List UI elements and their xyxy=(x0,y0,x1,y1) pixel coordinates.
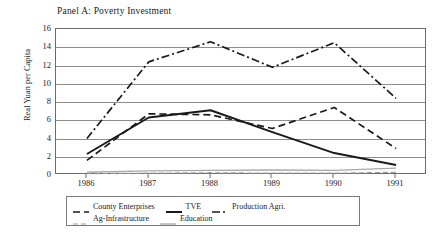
y-tick-label: 2 xyxy=(21,152,51,161)
series-line xyxy=(87,172,396,173)
legend-key-icon xyxy=(212,202,228,210)
y-tick-label: 0 xyxy=(21,170,51,179)
legend-label: Ag-Infrastructure xyxy=(93,214,149,223)
legend-item[interactable]: Production Agri. xyxy=(212,202,285,211)
x-tick-label: 1987 xyxy=(125,178,171,188)
series-line xyxy=(87,42,396,139)
x-tick-label: 1989 xyxy=(248,178,294,188)
series-line xyxy=(87,168,396,172)
legend: County EnterprisesTVEProduction Agri. Ag… xyxy=(66,196,360,226)
legend-key-icon xyxy=(73,214,89,222)
y-axis-ticks: 0246810121416 xyxy=(18,28,51,174)
y-tick-label: 8 xyxy=(21,97,51,106)
y-tick-label: 6 xyxy=(21,115,51,124)
legend-label: Education xyxy=(180,214,212,223)
chart-panel: Panel A: Poverty Investment Real Yuan pe… xyxy=(0,0,445,239)
y-tick-label: 10 xyxy=(21,79,51,88)
x-tick-label: 1986 xyxy=(63,178,109,188)
y-tick-label: 12 xyxy=(21,60,51,69)
legend-label: TVE xyxy=(186,202,202,211)
x-tick-mark xyxy=(147,174,148,178)
x-axis-ticks: 198619871988198919901991 xyxy=(55,178,426,192)
legend-key-icon xyxy=(160,214,176,222)
legend-key-icon xyxy=(73,202,89,210)
series-line xyxy=(87,107,396,160)
x-tick-mark xyxy=(209,174,210,178)
x-tick-label: 1990 xyxy=(310,178,356,188)
y-tick-label: 16 xyxy=(21,24,51,33)
x-tick-mark xyxy=(333,174,334,178)
series-lines xyxy=(56,29,427,175)
x-tick-mark xyxy=(85,174,86,178)
x-tick-mark xyxy=(271,174,272,178)
legend-label: County Enterprises xyxy=(93,202,155,211)
legend-label: Production Agri. xyxy=(232,202,285,211)
plot-area xyxy=(55,28,426,174)
page-title: Panel A: Poverty Investment xyxy=(57,6,171,16)
legend-item[interactable]: County Enterprises xyxy=(73,202,155,211)
x-tick-mark xyxy=(395,174,396,178)
y-tick-label: 4 xyxy=(21,133,51,142)
x-tick-label: 1988 xyxy=(187,178,233,188)
legend-item[interactable]: Ag-Infrastructure xyxy=(73,214,149,223)
x-tick-label: 1991 xyxy=(372,178,418,188)
legend-row: County EnterprisesTVEProduction Agri. xyxy=(73,200,353,212)
y-tick-label: 14 xyxy=(21,42,51,51)
legend-item[interactable]: TVE xyxy=(166,202,202,211)
legend-key-icon xyxy=(166,202,182,210)
legend-item[interactable]: Education xyxy=(160,214,212,223)
